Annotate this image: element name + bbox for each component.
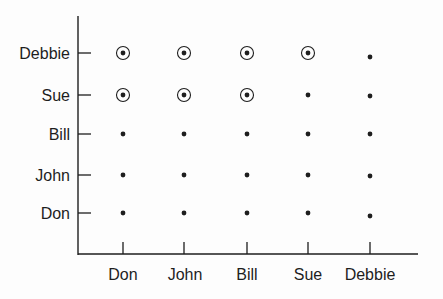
- point: [182, 211, 187, 216]
- x-tick-label: Bill: [236, 266, 257, 283]
- point: [245, 132, 250, 137]
- point: [368, 132, 373, 137]
- point: [368, 94, 373, 99]
- y-tick-label: John: [35, 167, 70, 184]
- y-tick-don: Don: [41, 205, 91, 222]
- point: [121, 173, 126, 178]
- point: [306, 132, 311, 137]
- y-tick-bill: Bill: [49, 126, 91, 143]
- y-tick-john: John: [35, 167, 91, 184]
- x-tick-debbie: Debbie: [345, 242, 396, 283]
- y-tick-sue: Sue: [42, 87, 91, 104]
- x-tick-sue: Sue: [294, 242, 323, 283]
- circled-point: [178, 47, 191, 60]
- y-tick-label: Don: [41, 205, 70, 222]
- point: [121, 211, 126, 216]
- x-tick-john: John: [168, 242, 203, 283]
- cartesian-product-chart: Debbie Sue Bill John Don Don John Bill S…: [0, 0, 443, 299]
- data-points: [117, 47, 373, 219]
- y-tick-label: Sue: [42, 87, 71, 104]
- point: [306, 93, 311, 98]
- x-tick-label: Debbie: [345, 266, 396, 283]
- circled-point: [241, 47, 254, 60]
- point: [368, 214, 373, 219]
- x-tick-label: John: [168, 266, 203, 283]
- circled-point: [302, 47, 315, 60]
- point: [121, 132, 126, 137]
- circled-point: [117, 47, 130, 60]
- x-tick-label: Don: [108, 266, 137, 283]
- circled-point: [117, 89, 130, 102]
- point: [368, 174, 373, 179]
- y-tick-debbie: Debbie: [19, 45, 91, 62]
- x-tick-don: Don: [108, 242, 137, 283]
- x-tick-bill: Bill: [236, 242, 257, 283]
- point: [306, 211, 311, 216]
- circled-point: [178, 89, 191, 102]
- point: [182, 132, 187, 137]
- y-tick-label: Debbie: [19, 45, 70, 62]
- point: [368, 55, 373, 60]
- point: [245, 173, 250, 178]
- point: [306, 173, 311, 178]
- circled-point: [241, 89, 254, 102]
- point: [245, 211, 250, 216]
- point: [182, 173, 187, 178]
- y-tick-label: Bill: [49, 126, 70, 143]
- x-tick-label: Sue: [294, 266, 323, 283]
